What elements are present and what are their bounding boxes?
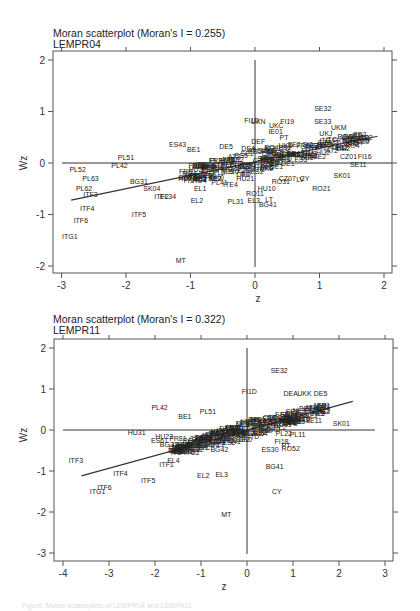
region-label: BE1 bbox=[187, 146, 200, 153]
region-label: SK01 bbox=[333, 420, 350, 427]
region-label: ITF3 bbox=[83, 191, 97, 198]
x-tick-label: -2 bbox=[122, 280, 131, 291]
y-tick-label: -2 bbox=[37, 507, 46, 518]
region-label: PL42 bbox=[111, 162, 127, 169]
moran-scatterplots: Moran scatterplot (Moran's I = 0.255) LE… bbox=[0, 0, 420, 611]
region-label: ES30 bbox=[261, 446, 278, 453]
region-label: ITF1 bbox=[159, 461, 173, 468]
region-label: DK0 bbox=[171, 447, 185, 454]
x-axis-label: z bbox=[256, 293, 261, 304]
region-label: SK01 bbox=[334, 172, 351, 179]
y-tick-label: 1 bbox=[39, 106, 45, 117]
region-label: ITF3 bbox=[69, 457, 83, 464]
region-label: ITC bbox=[314, 406, 325, 413]
region-label: UKJ bbox=[319, 130, 332, 137]
region-label: ITF4 bbox=[113, 470, 127, 477]
plot-lempr11: Moran scatterplot (Moran's I = 0.322) LE… bbox=[18, 313, 398, 592]
region-label: ITF5 bbox=[132, 211, 146, 218]
region-label: ITG1 bbox=[90, 488, 106, 495]
region-label: CY bbox=[272, 488, 282, 495]
region-label: AT2 bbox=[292, 151, 304, 158]
region-label: FR1 bbox=[233, 430, 246, 437]
region-label: BG42 bbox=[210, 446, 228, 453]
x-tick-label: -2 bbox=[151, 568, 160, 579]
x-tick-label: -4 bbox=[59, 568, 68, 579]
region-label: CY bbox=[300, 175, 310, 182]
region-label: BG41 bbox=[259, 201, 277, 208]
figure-caption: Figure: Moran scatterplots of LEMPR04 an… bbox=[22, 602, 192, 610]
data-labels: DE1DE2FR1NL3AT2BE2ES5ITCUKDFR6DK0SE2FI1C… bbox=[62, 105, 373, 264]
plot-subtitle: LEMPR11 bbox=[53, 324, 100, 336]
region-label: SE2 bbox=[287, 141, 300, 148]
y-tick-label: 0 bbox=[40, 425, 46, 436]
region-label: UKK bbox=[297, 390, 312, 397]
x-tick-label: -3 bbox=[105, 568, 114, 579]
region-label: ITE4 bbox=[223, 181, 238, 188]
y-tick-label: 2 bbox=[40, 343, 46, 354]
region-label: ITF5 bbox=[141, 477, 155, 484]
x-tick-label: 1 bbox=[317, 280, 323, 291]
region-label: ITF6 bbox=[74, 217, 88, 224]
region-label: ITF4 bbox=[80, 205, 94, 212]
plot-subtitle: LEMPR04 bbox=[53, 38, 101, 50]
region-label: ES43 bbox=[169, 141, 186, 148]
region-label: EL2 bbox=[197, 472, 210, 479]
region-label: BE1 bbox=[178, 413, 191, 420]
x-tick-label: 3 bbox=[382, 568, 388, 579]
region-label: ITG2 bbox=[184, 449, 200, 456]
region-label: SK04 bbox=[143, 185, 160, 192]
region-label: HU23 bbox=[178, 175, 196, 182]
y-tick-label: -1 bbox=[37, 466, 46, 477]
x-tick-label: 0 bbox=[244, 568, 250, 579]
y-tick-label: -2 bbox=[36, 261, 45, 272]
region-label: PL52 bbox=[69, 166, 85, 173]
y-tick-label: 0 bbox=[39, 158, 45, 169]
region-label: FR6 bbox=[263, 415, 276, 422]
region-label: UKN bbox=[251, 118, 266, 125]
region-label: BG31 bbox=[130, 178, 148, 185]
region-label: HU21 bbox=[236, 175, 254, 182]
y-axis-label: Wz bbox=[18, 428, 29, 442]
region-label: ITC bbox=[319, 137, 330, 144]
region-label: SE2 bbox=[313, 153, 326, 160]
region-label: EL2 bbox=[191, 197, 204, 204]
region-label: PL43 bbox=[202, 166, 218, 173]
region-label: EL3 bbox=[215, 471, 228, 478]
plot-lempr04: Moran scatterplot (Moran's I = 0.255) LE… bbox=[18, 27, 397, 304]
region-label: SE33 bbox=[314, 118, 331, 125]
x-tick-label: -3 bbox=[57, 280, 66, 291]
x-tick-label: -1 bbox=[197, 568, 206, 579]
region-label: FI1D bbox=[242, 388, 257, 395]
x-tick-label: 2 bbox=[336, 568, 342, 579]
region-label: MT bbox=[221, 511, 232, 518]
region-label: FR1 bbox=[211, 430, 224, 437]
region-label: SE32 bbox=[314, 105, 331, 112]
region-label: CZ01 bbox=[340, 153, 357, 160]
region-label: DE5 bbox=[219, 143, 233, 150]
region-label: PL51 bbox=[200, 408, 216, 415]
axis-ticks: -4-3-2-10123-3-2-1012 bbox=[37, 335, 398, 579]
region-label: FI18 bbox=[274, 438, 288, 445]
region-label: SE11 bbox=[350, 161, 367, 168]
region-label: UKM bbox=[331, 124, 347, 131]
y-tick-label: -1 bbox=[36, 209, 45, 220]
y-tick-label: 2 bbox=[39, 55, 45, 66]
region-label: BG31 bbox=[160, 441, 178, 448]
region-label: DEF bbox=[251, 138, 265, 145]
region-label: RO21 bbox=[312, 185, 330, 192]
region-label: BG41 bbox=[266, 463, 284, 470]
region-label: PL42 bbox=[151, 404, 167, 411]
region-label: FI13 bbox=[267, 149, 281, 156]
region-label: BE2 bbox=[225, 424, 238, 431]
region-label: ES2 bbox=[240, 163, 253, 170]
region-label: EL1 bbox=[194, 185, 207, 192]
data-labels: DE1DE2FR1NL3AT2BE2ES5ITCUKDFR6DK0SE2FI1C… bbox=[69, 367, 350, 518]
region-label: PL63 bbox=[82, 175, 98, 182]
x-tick-label: 0 bbox=[252, 280, 258, 291]
region-label: FI16 bbox=[358, 153, 372, 160]
region-label: UKD bbox=[197, 436, 212, 443]
region-label: ITD bbox=[294, 412, 305, 419]
region-label: SE32 bbox=[271, 367, 288, 374]
region-label: DEA bbox=[241, 145, 256, 152]
y-tick-label: 1 bbox=[40, 384, 46, 395]
